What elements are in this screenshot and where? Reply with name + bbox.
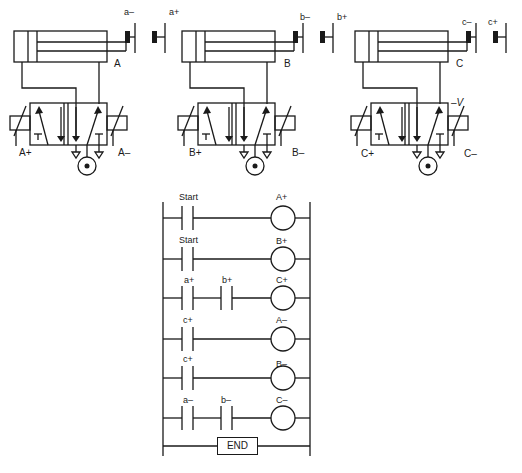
contact-label-rung-3a: a+ [184, 276, 194, 285]
coil-label-rung-1: A+ [276, 193, 287, 202]
rung-6 [163, 406, 310, 430]
switch-label-b-minus: b– [300, 13, 310, 22]
switch-label-a-minus: a– [124, 8, 134, 17]
coil-label-rung-3: C+ [276, 276, 288, 285]
solenoid-label-b-plus: B+ [189, 148, 202, 158]
coil-label-rung-6: C– [276, 396, 288, 405]
rung-1 [163, 206, 310, 230]
contact-label-rung-5: c+ [183, 355, 193, 364]
pneumatic-ladder-diagram [0, 0, 522, 473]
switch-label-c-minus: c– [462, 18, 472, 27]
solenoid-label-a-minus: A– [118, 148, 130, 158]
switch-label-c-plus: c+ [488, 18, 498, 27]
end-instruction: END [217, 437, 258, 455]
contact-label-rung-3b: b+ [222, 276, 232, 285]
valve-c-extra-label: –V [451, 98, 463, 108]
contact-label-rung-1: Start [179, 193, 198, 202]
contact-label-rung-6b: b– [221, 396, 231, 405]
switch-label-a-plus: a+ [169, 8, 179, 17]
solenoid-label-a-plus: A+ [19, 148, 32, 158]
solenoid-label-b-minus: B– [292, 148, 304, 158]
solenoid-label-c-minus: C– [464, 149, 477, 159]
rung-4 [163, 327, 310, 351]
cylinder-label-a: A [114, 59, 121, 69]
coil-label-rung-2: B+ [276, 237, 287, 246]
cylinder-label-b: B [284, 59, 291, 69]
coil-label-rung-5: B– [276, 360, 287, 369]
rung-3 [163, 286, 310, 310]
rung-5 [163, 366, 310, 390]
coil-label-rung-4: A– [276, 316, 287, 325]
contact-label-rung-2: Start [179, 236, 198, 245]
rung-2 [163, 247, 310, 271]
contact-label-rung-6a: a– [183, 396, 193, 405]
switch-label-b-plus: b+ [337, 13, 347, 22]
cylinder-label-c: C [456, 59, 463, 69]
cylinder-valve-a [10, 23, 165, 175]
contact-label-rung-4: c+ [183, 316, 193, 325]
cylinder-valve-c [351, 23, 506, 175]
solenoid-label-c-plus: C+ [361, 149, 374, 159]
